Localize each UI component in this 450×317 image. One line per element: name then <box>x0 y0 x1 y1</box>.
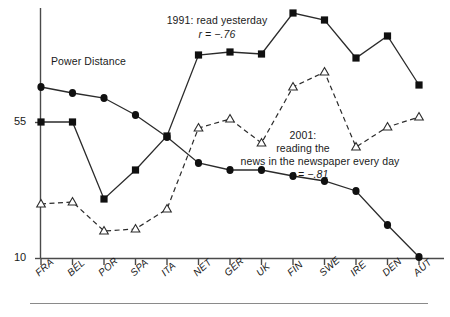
series-power-distance-markers <box>37 83 422 261</box>
annotation-2001-subtitle: reading the <box>263 142 343 155</box>
annotation-2001-correlation: r = −.81 <box>265 168 355 181</box>
annotation-1991-title: 1991: read yesterday <box>152 14 282 27</box>
y-axis-label-10: 10 <box>14 251 26 263</box>
footer-divider-rule <box>30 303 428 304</box>
annotation-power-distance: Power Distance <box>51 55 126 68</box>
figure-container: 55 10 FRA BEL POR SPA ITA NET GER UK FIN… <box>0 0 450 317</box>
annotation-1991-correlation: r = −.76 <box>152 28 282 41</box>
series-2001-markers <box>37 68 424 235</box>
annotation-2001-description: news in the newspaper every day <box>225 155 415 168</box>
y-axis-label-55: 55 <box>14 115 26 127</box>
series-2001-line <box>41 72 419 231</box>
annotation-2001-title: 2001: <box>273 129 333 142</box>
